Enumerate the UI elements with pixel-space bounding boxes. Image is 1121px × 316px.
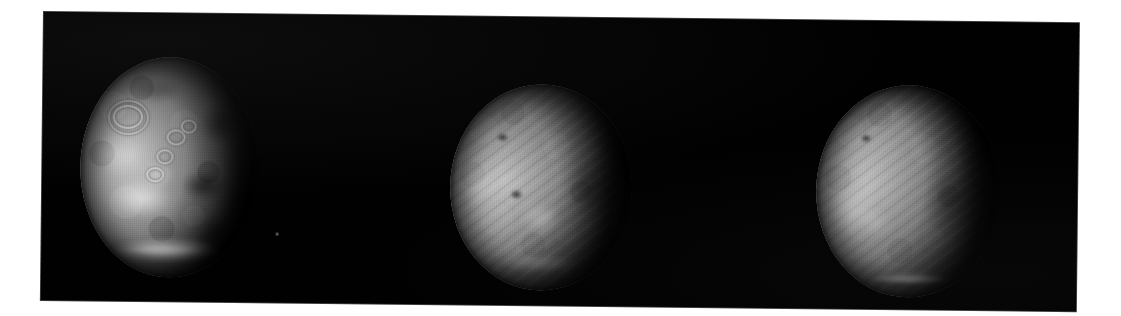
figure-page — [0, 0, 1121, 316]
scanned-plate — [41, 12, 1079, 311]
mars-disk-panel-1 — [79, 56, 259, 278]
black-sky-background — [41, 12, 1079, 311]
scan-speck-artifact — [276, 233, 279, 236]
mars-disk-panel-3 — [815, 84, 1001, 298]
mars-disk-panel-2 — [449, 83, 633, 291]
